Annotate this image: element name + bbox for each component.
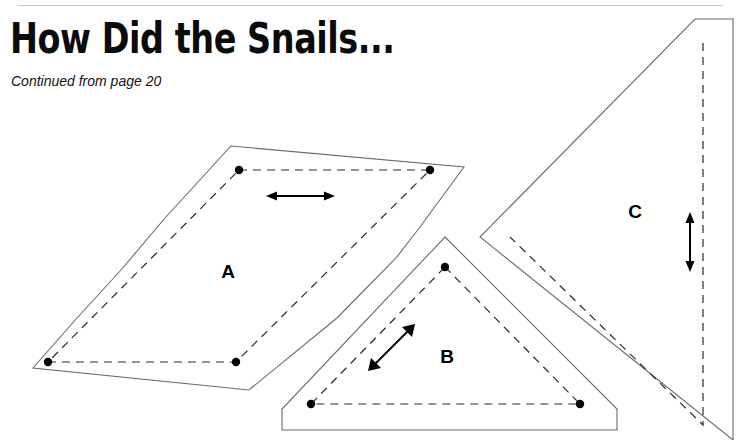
- pattern-page: How Did the Snails... Continued from pag…: [0, 0, 741, 440]
- piece-label-c: C: [628, 201, 642, 223]
- piece-label-a: A: [221, 261, 235, 283]
- piece-label-b: B: [440, 346, 454, 368]
